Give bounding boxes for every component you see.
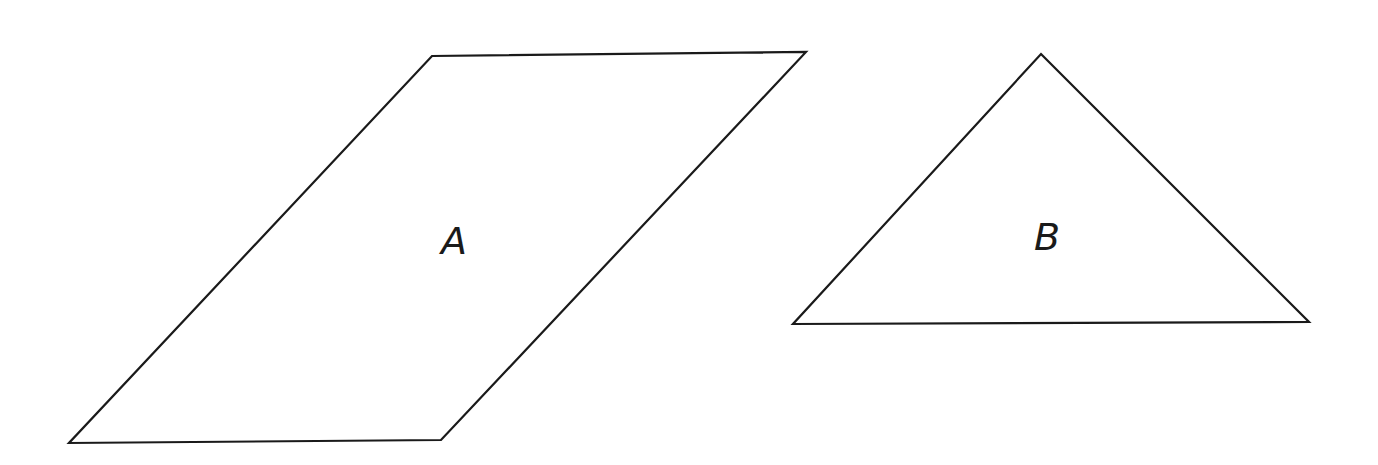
triangle-b — [793, 54, 1309, 324]
diagram-canvas: A B — [0, 0, 1378, 465]
label-b: B — [1034, 215, 1060, 259]
label-a: A — [438, 219, 467, 263]
parallelogram-a — [69, 52, 806, 443]
